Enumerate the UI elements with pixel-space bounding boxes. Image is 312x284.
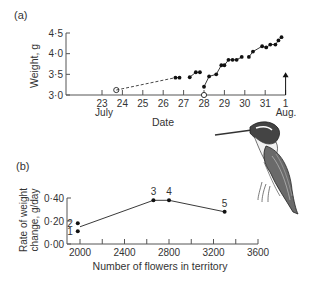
- chart-b-xlabel: Number of flowers in territory: [93, 260, 229, 272]
- point-label: 2: [67, 218, 73, 229]
- x-tick-label: 2000: [69, 247, 92, 258]
- data-point: [214, 72, 218, 76]
- chart-b-ylabel-line2: change, g/day: [29, 189, 40, 252]
- hummingbird-illustration: [215, 122, 298, 214]
- data-point: [201, 92, 206, 97]
- x-tick-label: 29: [219, 98, 231, 109]
- data-point: [240, 55, 244, 59]
- data-point: [76, 221, 80, 225]
- y-tick-label: 0·40: [44, 193, 64, 204]
- x-tick-label: 27: [178, 98, 190, 109]
- data-point: [178, 76, 182, 80]
- y-tick-label: 3·0: [49, 90, 64, 101]
- data-point: [194, 70, 198, 74]
- x-tick-label: 30: [239, 98, 251, 109]
- y-tick-label: 4·5: [49, 28, 64, 39]
- x-tick-label: 25: [137, 98, 149, 109]
- data-point: [198, 70, 202, 74]
- y-tick-label: 0·20: [44, 216, 64, 227]
- x-tick-label: 2800: [158, 247, 181, 258]
- data-point: [223, 210, 227, 214]
- data-point: [174, 76, 178, 80]
- x-tick-label: 28: [198, 98, 210, 109]
- y-tick-label: 4·0: [49, 48, 64, 59]
- panel-a-label: (a): [14, 9, 27, 21]
- chart-b-ylabel-line1: Rate of weight: [18, 188, 29, 252]
- data-point: [207, 75, 211, 79]
- data-point: [227, 58, 231, 62]
- chart-a-ylabel: Weight, g: [28, 44, 40, 88]
- data-point: [151, 198, 155, 202]
- figure: (a) 3·03·54·04·52324252627282930311 Weig…: [0, 0, 312, 284]
- x-tick-label: 24: [117, 98, 129, 109]
- point-label: 5: [222, 198, 228, 209]
- panel-b-label: (b): [16, 160, 29, 172]
- arrow-up-icon: [283, 72, 289, 77]
- x-tick-label: 2400: [113, 247, 136, 258]
- data-point: [202, 85, 206, 89]
- y-tick-label: 3·5: [49, 69, 64, 80]
- data-point: [280, 35, 284, 39]
- y-tick-label: 0·00: [44, 239, 64, 250]
- data-point: [76, 229, 80, 233]
- aug-label: Aug.: [276, 107, 297, 118]
- data-point: [231, 58, 235, 62]
- data-point: [247, 55, 251, 59]
- x-tick-label: 3200: [202, 247, 225, 258]
- data-point: [277, 39, 281, 43]
- data-point: [260, 44, 264, 48]
- data-point: [264, 46, 268, 50]
- point-label: 4: [166, 186, 172, 197]
- x-tick-label: 26: [158, 98, 170, 109]
- chart-a-data: [114, 35, 289, 97]
- chart-a-xlabel: Date: [152, 116, 174, 128]
- data-point: [188, 75, 192, 79]
- data-point: [251, 50, 255, 54]
- data-point: [268, 43, 272, 47]
- chart-b-data: 12345: [67, 186, 228, 237]
- data-point: [223, 63, 227, 67]
- data-point: [167, 198, 171, 202]
- x-tick-label: 31: [260, 98, 272, 109]
- july-label: July: [95, 107, 113, 118]
- data-point: [235, 58, 239, 62]
- point-label: 3: [151, 186, 157, 197]
- x-tick-label: 3600: [247, 247, 270, 258]
- data-point: [274, 43, 278, 47]
- chart-a-axes: 3·03·54·04·52324252627282930311: [49, 28, 289, 110]
